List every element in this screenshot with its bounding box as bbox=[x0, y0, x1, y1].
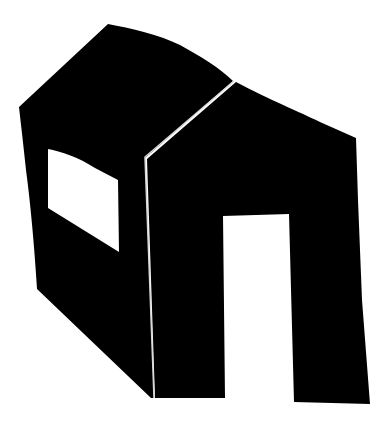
house-illustration bbox=[0, 0, 389, 424]
house-front-wall bbox=[147, 82, 370, 404]
house-icon bbox=[0, 0, 389, 424]
